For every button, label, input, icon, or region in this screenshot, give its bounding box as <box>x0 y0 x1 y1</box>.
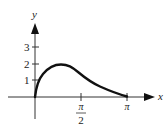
x-tick-label-pi-half-den: 2 <box>78 114 84 126</box>
x-tick-label-pi: π <box>124 101 130 112</box>
y-tick-label-3: 3 <box>24 41 30 53</box>
y-axis-arrow-icon <box>31 23 39 34</box>
chart: x y 1 2 3 π 2 π <box>0 0 166 134</box>
curve <box>35 65 127 98</box>
x-tick-label-pi-half-num: π <box>78 101 84 112</box>
x-axis-arrow-icon <box>144 93 155 101</box>
x-ticks: π 2 π <box>76 93 130 126</box>
x-axis: x <box>8 90 163 102</box>
y-axis-label: y <box>31 8 37 20</box>
y-ticks: 1 2 3 <box>24 41 39 86</box>
y-tick-label-1: 1 <box>24 74 30 86</box>
y-tick-label-2: 2 <box>24 58 30 70</box>
x-axis-label: x <box>157 90 163 102</box>
